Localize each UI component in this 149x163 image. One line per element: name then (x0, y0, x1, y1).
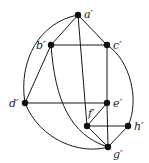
node-c (104, 42, 110, 48)
node-a (75, 12, 81, 18)
node-label-b: b′ (36, 39, 46, 52)
node-f (84, 123, 90, 129)
node-g (105, 144, 111, 150)
edge-a-f (78, 15, 87, 126)
node-label-e: e′ (113, 97, 123, 110)
node-label-f: f′ (87, 107, 95, 120)
node-label-a: a′ (84, 8, 94, 21)
edge-b-d (25, 45, 51, 103)
graph-diagram: a′b′c′d′e′f′h′g′ (0, 0, 149, 163)
node-label-d: d′ (9, 97, 19, 110)
node-h (125, 123, 131, 129)
node-label-h: h′ (134, 120, 144, 133)
edge-a-d (24, 15, 78, 103)
edge-b-g (51, 45, 108, 147)
edge-h-g (108, 126, 128, 147)
node-b (48, 42, 54, 48)
edge-e-g (107, 103, 108, 147)
node-label-g: g′ (113, 148, 123, 161)
node-label-c: c′ (113, 39, 122, 52)
edges (24, 15, 133, 149)
nodes: a′b′c′d′e′f′h′g′ (9, 8, 144, 161)
edge-c-h (107, 45, 133, 126)
edge-f-g (87, 126, 108, 147)
edge-a-b (51, 15, 78, 45)
node-e (104, 100, 110, 106)
node-d (22, 100, 28, 106)
